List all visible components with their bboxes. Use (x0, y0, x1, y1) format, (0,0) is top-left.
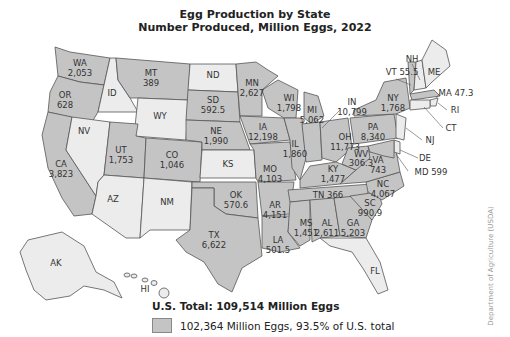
state-nm (140, 178, 192, 238)
svg-text:NY: NY (387, 93, 399, 103)
svg-text:AR: AR (269, 200, 281, 210)
svg-text:4,103: 4,103 (258, 174, 282, 184)
svg-text:KY: KY (328, 164, 339, 174)
svg-text:1,860: 1,860 (283, 149, 307, 159)
svg-text:RI: RI (451, 105, 459, 115)
svg-text:1,753: 1,753 (109, 155, 133, 165)
us-map: WA 2,053 OR 628 CA 3,823 ID NV MT 389 WY… (0, 0, 510, 337)
svg-text:CA: CA (55, 159, 67, 169)
svg-text:WI: WI (284, 93, 295, 103)
svg-text:WY: WY (153, 111, 167, 121)
legend-label: 102,364 Million Eggs, 93.5% of U.S. tota… (180, 320, 395, 332)
svg-text:MS: MS (300, 218, 313, 228)
svg-text:VT 55.5: VT 55.5 (386, 67, 419, 77)
svg-text:SD: SD (207, 95, 219, 105)
svg-text:12,198: 12,198 (248, 132, 278, 142)
svg-text:WA: WA (73, 58, 87, 68)
svg-text:NE: NE (210, 126, 222, 136)
svg-text:NV: NV (78, 126, 90, 136)
svg-text:NH: NH (406, 54, 419, 64)
svg-text:MA 47.3: MA 47.3 (439, 88, 474, 98)
svg-text:MO: MO (263, 164, 277, 174)
svg-text:LA: LA (273, 235, 284, 245)
svg-text:5,062: 5,062 (300, 115, 324, 125)
svg-text:NC: NC (377, 179, 389, 189)
state-az (92, 175, 144, 238)
svg-text:NM: NM (160, 197, 174, 207)
svg-text:306.3: 306.3 (349, 158, 373, 168)
svg-text:2,611: 2,611 (315, 228, 339, 238)
legend-swatch (152, 318, 172, 333)
svg-text:AK: AK (50, 258, 62, 268)
svg-text:CO: CO (166, 150, 179, 160)
svg-text:CT: CT (445, 123, 457, 133)
svg-text:1,046: 1,046 (160, 160, 184, 170)
state-ct (410, 100, 430, 110)
svg-text:NJ: NJ (426, 135, 435, 145)
svg-text:1,477: 1,477 (321, 174, 345, 184)
svg-text:OH: OH (338, 132, 351, 142)
svg-text:IA: IA (259, 122, 268, 132)
svg-text:4,151: 4,151 (263, 210, 287, 220)
svg-text:HI: HI (141, 284, 150, 294)
svg-text:GA: GA (347, 218, 360, 228)
svg-text:5,203: 5,203 (341, 228, 365, 238)
svg-text:OK: OK (230, 190, 243, 200)
svg-text:TX: TX (207, 230, 219, 240)
svg-text:AZ: AZ (107, 194, 119, 204)
svg-text:ME: ME (428, 67, 441, 77)
svg-text:628: 628 (57, 100, 73, 110)
svg-text:4,067: 4,067 (371, 189, 395, 199)
svg-text:1,768: 1,768 (381, 103, 405, 113)
svg-text:ID: ID (107, 88, 117, 98)
svg-text:SC: SC (364, 198, 375, 208)
svg-text:VA: VA (372, 155, 383, 165)
svg-text:FL: FL (370, 266, 380, 276)
svg-text:2,053: 2,053 (68, 68, 92, 78)
state-de (394, 140, 400, 154)
svg-text:1,798: 1,798 (277, 103, 301, 113)
state-ri (430, 98, 438, 106)
svg-text:6,622: 6,622 (202, 240, 226, 250)
svg-text:990.9: 990.9 (358, 208, 382, 218)
svg-text:570.6: 570.6 (224, 200, 248, 210)
svg-text:AL: AL (322, 218, 333, 228)
svg-text:MN: MN (245, 78, 259, 88)
svg-text:MD 599: MD 599 (415, 167, 448, 177)
svg-text:KS: KS (223, 159, 234, 169)
svg-text:PA: PA (368, 122, 379, 132)
svg-text:ND: ND (207, 70, 220, 80)
source-credit: Department of Agriculture (USDA) (486, 206, 494, 325)
svg-text:IL: IL (291, 139, 299, 149)
state-me (422, 40, 450, 88)
svg-text:TN 366: TN 366 (312, 190, 343, 200)
svg-text:8,340: 8,340 (361, 132, 385, 142)
svg-text:2,627: 2,627 (240, 88, 264, 98)
legend: 102,364 Million Eggs, 93.5% of U.S. tota… (152, 318, 395, 333)
state-nj (396, 114, 406, 140)
svg-text:MI: MI (307, 105, 317, 115)
svg-text:389: 389 (143, 78, 159, 88)
svg-text:592.5: 592.5 (201, 105, 225, 115)
svg-text:10,799: 10,799 (337, 107, 367, 117)
svg-text:UT: UT (115, 145, 127, 155)
svg-text:MT: MT (145, 68, 158, 78)
svg-text:OR: OR (59, 90, 72, 100)
svg-text:3,823: 3,823 (49, 169, 73, 179)
state-ak (20, 232, 122, 300)
svg-text:501.5: 501.5 (266, 245, 290, 255)
us-total: U.S. Total: 109,514 Million Eggs (152, 300, 339, 312)
svg-text:IN: IN (348, 97, 357, 107)
svg-text:1,990: 1,990 (204, 136, 228, 146)
svg-text:DE: DE (419, 153, 431, 163)
